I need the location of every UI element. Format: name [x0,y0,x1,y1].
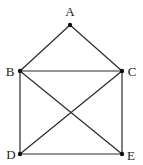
nodes [18,23,124,156]
graph-diagram: A B C D E [0,0,143,165]
label-e: E [127,148,135,163]
node-d [18,152,22,156]
label-b: B [6,64,15,79]
node-e [120,152,124,156]
edges [20,25,122,154]
label-c: C [128,64,137,79]
node-b [18,69,22,73]
edge-a-b [20,25,70,71]
label-d: D [6,147,15,162]
edge-a-c [70,25,122,71]
labels: A B C D E [6,4,137,163]
label-a: A [65,4,75,19]
node-a [68,23,72,27]
node-c [120,69,124,73]
